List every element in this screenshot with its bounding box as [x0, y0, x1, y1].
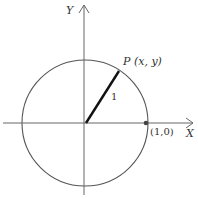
point-one-zero-label: (1,0) — [150, 127, 174, 137]
diagram-canvas — [0, 0, 198, 199]
point-p-label: P (x, y) — [123, 56, 162, 67]
point-one-zero-dot — [144, 121, 149, 126]
y-axis-label: Y — [66, 5, 73, 16]
radius-label: 1 — [111, 92, 117, 102]
unit-circle-diagram: Y X P (x, y) 1 (1,0) — [0, 0, 198, 199]
x-axis-label: X — [186, 128, 194, 139]
